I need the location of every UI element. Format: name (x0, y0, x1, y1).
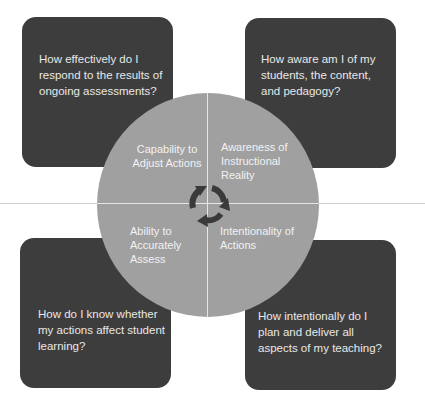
question-text: How aware am I of my students, the conte… (261, 51, 389, 99)
cycle-arrows-icon (183, 178, 233, 228)
quadrant-label-bottom-left: Ability to Accurately Assess (130, 224, 200, 266)
question-text: How do I know whether my actions affect … (38, 306, 168, 354)
quadrant-label-bottom-right: Intentionality of Actions (220, 224, 310, 252)
central-circle: Capability to Adjust Actions Awareness o… (97, 93, 319, 317)
question-text: How effectively do I respond to the resu… (39, 51, 167, 99)
question-text: How intentionally do I plan and deliver … (258, 308, 392, 356)
quadrant-label-top-right: Awareness of Instructional Reality (221, 140, 311, 182)
quadrant-label-top-left: Capability to Adjust Actions (127, 142, 207, 170)
